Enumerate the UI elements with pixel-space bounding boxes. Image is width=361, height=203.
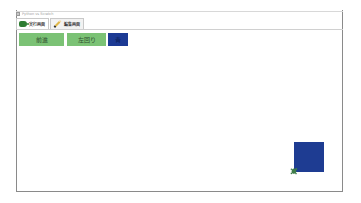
turn-left-button[interactable]: 左回り — [67, 33, 106, 46]
drawn-square — [294, 142, 324, 172]
drawing-stage — [17, 47, 342, 191]
tab-edit-screen[interactable]: 編集画面 — [50, 18, 84, 29]
forward-button[interactable]: 前進 — [19, 33, 64, 46]
turtle-sprite-icon[interactable] — [290, 167, 298, 175]
tab-divider — [16, 29, 343, 30]
title-bar: Python vs Scratch — [16, 10, 196, 17]
blue-color-button[interactable]: 青 — [108, 33, 128, 46]
app-icon — [16, 12, 20, 16]
tab-label: 編集画面 — [64, 21, 80, 27]
tab-run-screen[interactable]: 実行画面 — [16, 18, 49, 29]
tab-label: 実行画面 — [29, 21, 45, 27]
window-title: Python vs Scratch — [22, 11, 54, 17]
pencil-icon — [54, 20, 62, 28]
tab-bar: 実行画面 編集画面 — [16, 18, 84, 29]
turtle-icon — [19, 21, 27, 27]
